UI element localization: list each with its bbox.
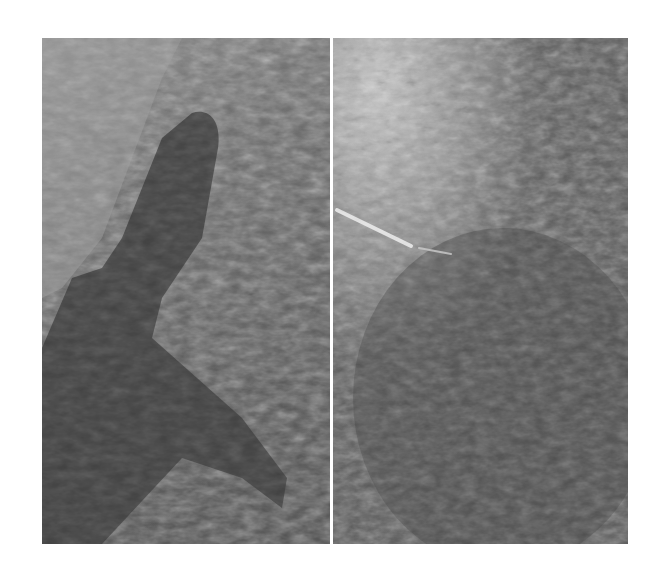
- left-photo-image: [42, 38, 330, 544]
- right-photo-panel: [333, 38, 628, 544]
- image-figure: [42, 38, 628, 544]
- right-photo-image: [333, 38, 628, 544]
- left-photo-panel: [42, 38, 330, 544]
